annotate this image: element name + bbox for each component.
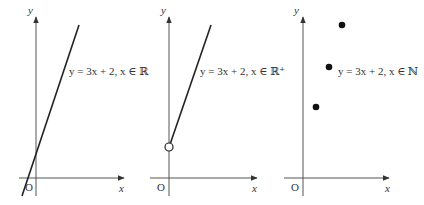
equation-label: y = 3x + 2, x ∈ ℝ⁺ <box>200 65 285 77</box>
graph-point-2 <box>326 64 333 71</box>
open-endpoint-marker <box>165 143 173 151</box>
x-axis-label: x <box>384 182 390 194</box>
y-axis-label: y <box>160 4 166 16</box>
function-domain-diagram: y x O y = 3x + 2, x ∈ ℝ y x O y = 3x + 2… <box>0 0 424 205</box>
equation-label: y = 3x + 2, x ∈ ℕ <box>338 65 418 77</box>
x-axis-label: x <box>251 182 257 194</box>
origin-label: O <box>291 181 299 193</box>
graph-point-3 <box>339 22 346 29</box>
panel-positive-real: y x O y = 3x + 2, x ∈ ℝ⁺ <box>150 4 285 196</box>
graph-line <box>22 25 79 196</box>
origin-label: O <box>157 181 165 193</box>
graph-point-1 <box>313 104 320 111</box>
equation-label: y = 3x + 2, x ∈ ℝ <box>69 65 149 77</box>
x-axis-label: x <box>118 182 124 194</box>
panel-real: y x O y = 3x + 2, x ∈ ℝ <box>19 4 149 196</box>
y-axis-label: y <box>27 4 33 16</box>
origin-label: O <box>25 181 33 193</box>
panel-natural: y x O y = 3x + 2, x ∈ ℕ <box>284 4 418 196</box>
y-axis-label: y <box>293 4 299 16</box>
graph-ray <box>171 25 212 143</box>
